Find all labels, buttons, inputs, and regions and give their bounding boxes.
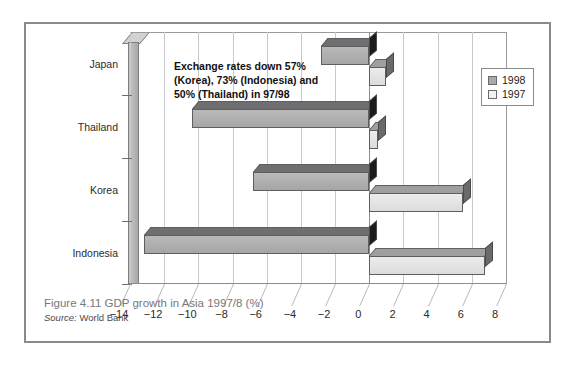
source-value: World Bank [79, 312, 128, 323]
legend[interactable]: 1998 1997 [481, 68, 534, 106]
bar-japan-1997[interactable] [369, 67, 386, 86]
figure-caption: Figure 4.11 GDP growth in Asia 1997/8 (%… [44, 297, 514, 309]
bar-korea-1997[interactable] [369, 193, 463, 212]
legend-label-1998: 1998 [502, 73, 525, 87]
bar-top-face [192, 101, 376, 109]
bar-end-cap [369, 31, 377, 57]
bar-korea-1998[interactable] [253, 172, 369, 191]
gridline-2 [403, 32, 404, 284]
legend-item-1998[interactable]: 1998 [488, 73, 525, 87]
category-label-thailand: Thailand [28, 121, 118, 133]
bar-front-face [369, 193, 463, 212]
legend-label-1997: 1997 [502, 87, 525, 101]
bar-end-cap [485, 241, 493, 267]
bar-end-cap [378, 115, 386, 141]
bar-front-face [321, 46, 369, 65]
y-axis-tick-0 [122, 95, 132, 96]
figure-source: Source: World Bank [44, 312, 514, 323]
y-axis-tick-1 [122, 158, 132, 159]
bar-front-face [192, 109, 370, 128]
bar-indonesia-1998[interactable] [144, 235, 370, 254]
bar-end-cap [386, 52, 394, 78]
x-axis-baseline [130, 283, 506, 284]
bar-end-cap [463, 178, 471, 204]
bar-front-face [253, 172, 369, 191]
bar-top-face [369, 185, 470, 193]
legend-swatch-1998 [488, 76, 497, 85]
y-axis-tick-2 [122, 221, 132, 222]
chart-area: JapanThailandKoreaIndonesia −14−12−10−8−… [26, 24, 553, 292]
bar-front-face [369, 130, 378, 149]
category-label-korea: Korea [28, 184, 118, 196]
bar-front-face [369, 67, 386, 86]
bar-japan-1998[interactable] [321, 46, 369, 65]
bar-indonesia-1997[interactable] [369, 256, 485, 275]
legend-item-1997[interactable]: 1997 [488, 87, 525, 101]
bar-thailand-1998[interactable] [192, 109, 370, 128]
bar-end-cap [369, 220, 377, 246]
bar-thailand-1997[interactable] [369, 130, 378, 149]
bar-end-cap [369, 157, 377, 183]
bar-top-face [144, 227, 376, 235]
bar-end-cap [369, 94, 377, 120]
chart-annotation: Exchange rates down 57% (Korea), 73% (In… [174, 60, 326, 102]
source-label: Source: [44, 312, 77, 323]
caption-block: Figure 4.11 GDP growth in Asia 1997/8 (%… [44, 297, 514, 323]
legend-swatch-1997 [488, 90, 497, 99]
category-label-japan: Japan [28, 58, 118, 70]
bar-top-face [253, 164, 376, 172]
gridline-4 [438, 32, 439, 284]
plot-top-edge [130, 32, 506, 33]
bar-front-face [144, 235, 370, 254]
gridline-6 [472, 32, 473, 284]
bar-front-face [369, 256, 485, 275]
bar-top-face [321, 38, 376, 46]
bar-top-face [369, 248, 492, 256]
figure-frame: JapanThailandKoreaIndonesia −14−12−10−8−… [24, 22, 551, 343]
category-label-indonesia: Indonesia [28, 247, 118, 259]
